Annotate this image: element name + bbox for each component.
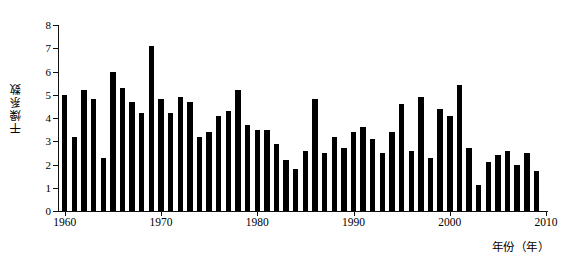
bar — [197, 137, 202, 211]
y-tick-label: 2 — [46, 159, 52, 170]
y-tick-label: 3 — [46, 136, 52, 147]
bar — [351, 132, 356, 211]
bar — [418, 97, 423, 211]
bar — [332, 137, 337, 211]
x-tick-label: 2010 — [535, 217, 558, 229]
y-tick-label: 4 — [46, 113, 52, 124]
bar — [264, 130, 269, 211]
bar — [409, 151, 414, 211]
x-tick-label: 1960 — [53, 217, 76, 229]
bar — [187, 102, 192, 211]
y-tick-label: 0 — [46, 206, 52, 217]
bar — [129, 102, 134, 211]
bar — [283, 160, 288, 211]
bar — [466, 148, 471, 211]
bar — [245, 125, 250, 211]
plot-area: 012345678 196019701980199020002010 — [58, 25, 548, 211]
dryness-coefficient-bar-chart: 干燥系数 012345678 196019701980199020002010 … — [0, 0, 579, 268]
bar — [158, 99, 163, 211]
x-tick-label: 2000 — [438, 217, 461, 229]
bar — [274, 144, 279, 211]
bar — [380, 153, 385, 211]
x-axis-spine — [58, 211, 548, 212]
bar — [72, 137, 77, 211]
bar — [255, 130, 260, 211]
bar — [81, 90, 86, 211]
bar — [312, 99, 317, 211]
bar — [505, 151, 510, 211]
bar — [360, 127, 365, 211]
bar — [139, 113, 144, 211]
bar — [495, 155, 500, 211]
bar — [389, 132, 394, 211]
x-tick-label: 1990 — [342, 217, 365, 229]
bar — [447, 116, 452, 211]
y-tick-label: 8 — [46, 20, 52, 31]
bar — [437, 109, 442, 211]
x-tick-label: 1970 — [150, 217, 173, 229]
bar — [322, 153, 327, 211]
bar — [206, 132, 211, 211]
y-tick-label: 1 — [46, 182, 52, 193]
y-tick-mark — [53, 211, 58, 212]
bar — [216, 116, 221, 211]
bar — [226, 111, 231, 211]
bar — [293, 169, 298, 211]
bar-series — [58, 25, 548, 211]
bar — [101, 158, 106, 211]
bar — [120, 88, 125, 211]
bar — [178, 97, 183, 211]
x-tick-label: 1980 — [246, 217, 269, 229]
bar — [524, 153, 529, 211]
bar — [235, 90, 240, 211]
y-axis-label-text: 干燥系数 — [11, 82, 23, 134]
bar — [428, 158, 433, 211]
y-tick-label: 5 — [46, 89, 52, 100]
bar — [476, 185, 481, 211]
bar — [457, 85, 462, 211]
y-axis-label: 干燥系数 — [6, 60, 28, 156]
bar — [486, 162, 491, 211]
bar — [110, 72, 115, 212]
bar — [303, 151, 308, 211]
bar — [168, 113, 173, 211]
bar — [399, 104, 404, 211]
bar — [514, 165, 519, 212]
bar — [370, 139, 375, 211]
y-tick-label: 6 — [46, 66, 52, 77]
bar — [149, 46, 154, 211]
bar — [62, 95, 67, 211]
x-axis-caption: 年份（年） — [492, 238, 550, 254]
bar — [534, 171, 539, 211]
bar — [91, 99, 96, 211]
y-tick-label: 7 — [46, 43, 52, 54]
bar — [341, 148, 346, 211]
